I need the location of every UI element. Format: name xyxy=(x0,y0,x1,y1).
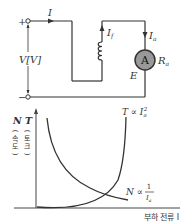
plus-label: + xyxy=(18,16,26,27)
y-label-n-kor-1: 속 xyxy=(12,135,19,143)
x-axis-label: 부하 전류 I xyxy=(144,212,179,222)
line-current-arrow-icon xyxy=(48,19,54,24)
svg-text:1: 1 xyxy=(147,183,151,191)
armature-resistance-label: Ra xyxy=(157,55,170,67)
torque-curve xyxy=(37,117,126,208)
characteristics-graph: N T ( 속 도 ) ( 토 크 ) T ∝ Ia2 N ∝ 1 Ia 부하 … xyxy=(11,106,180,222)
circuit xyxy=(30,21,145,97)
field-current-label: If xyxy=(106,27,115,40)
y-label-t-paren-open: ( xyxy=(23,130,31,133)
speed-curve-label: N ∝ 1 Ia xyxy=(125,183,154,203)
y-label-n-kor-2: 도 xyxy=(12,143,19,151)
armature-current-arrow-icon xyxy=(143,32,148,38)
series-motor-diagram: A + − V[V] I If Ia Ra E N T ( 속 도 ) ( 토 … xyxy=(0,0,185,223)
field-coil-icon xyxy=(98,42,102,60)
minus-label: − xyxy=(18,92,26,103)
y-label-t: T xyxy=(25,115,33,126)
armature-current-label: Ia xyxy=(148,30,157,42)
voltage-arrow-up-head-icon xyxy=(27,24,30,28)
voltage-label: V[V] xyxy=(19,54,41,65)
y-label-t-kor-1: 토 xyxy=(24,135,31,143)
svg-text:N ∝: N ∝ xyxy=(125,187,143,197)
y-label-t-kor-2: 크 xyxy=(24,143,31,151)
svg-text:Ia: Ia xyxy=(145,194,152,203)
plus-terminal-icon xyxy=(26,19,30,23)
emf-label: E xyxy=(129,70,138,81)
y-label-n-paren-open: ( xyxy=(11,130,19,133)
field-current-arrow-icon xyxy=(100,25,105,31)
line-current-label: I xyxy=(47,7,53,18)
y-label-t-paren-close: ) xyxy=(23,153,31,156)
voltage-arrow-down-head-icon xyxy=(27,90,30,94)
y-label-n-paren-close: ) xyxy=(11,153,19,156)
minus-terminal-icon xyxy=(26,95,30,99)
speed-curve xyxy=(47,118,128,200)
y-label-n: N xyxy=(12,115,22,126)
torque-curve-label: T ∝ Ia2 xyxy=(122,106,148,118)
y-axis-arrow-icon xyxy=(34,108,38,114)
armature-symbol: A xyxy=(140,54,150,67)
